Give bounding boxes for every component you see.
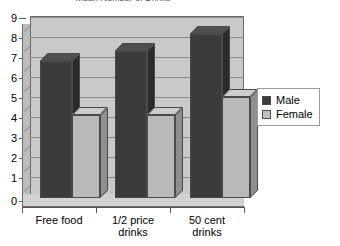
y-tick-label-1: 1: [0, 173, 17, 183]
bar-face: [190, 34, 222, 198]
y-tick-label-5: 5: [0, 93, 17, 103]
bar-female-half-price-drinks: [147, 115, 175, 198]
bar-face: [147, 115, 175, 198]
legend-swatch-male-icon: [262, 96, 271, 105]
y-tick-label-6: 6: [0, 73, 17, 83]
bar-face: [72, 115, 100, 198]
x-axis-label-half-price-drinks: 1/2 price drinks: [96, 214, 170, 238]
gridline-9: [30, 17, 244, 18]
bar-side: [100, 107, 108, 198]
y-tick-label-7: 7: [0, 53, 17, 63]
x-axis-label-line1: 50 cent: [170, 214, 244, 226]
x-axis-label-line1: 1/2 price: [96, 214, 170, 226]
x-tick-mark-3: [244, 207, 245, 213]
chart-legend: Male Female: [257, 88, 320, 126]
x-axis-label-50-cent-drinks: 50 cent drinks: [170, 214, 244, 238]
x-tick-mark-2: [170, 207, 171, 213]
x-axis-label-free-food: Free food: [22, 214, 96, 226]
x-axis-label-line1: Free food: [22, 214, 96, 226]
bar-female-50-cent-drinks: [222, 97, 250, 198]
legend-label-female: Female: [276, 108, 313, 120]
y-tick-label-0: 0: [0, 196, 17, 206]
x-axis-label-line2: drinks: [96, 226, 170, 238]
legend-item-male[interactable]: Male: [262, 93, 313, 107]
y-tick-label-3: 3: [0, 133, 17, 143]
bar-face: [40, 61, 72, 198]
y-tick-mark-9: [19, 18, 26, 19]
bar-side: [175, 107, 183, 198]
bar-chart: Mean Number of Drinks 9 8 7 6 5 4 3 2 1 …: [0, 0, 340, 246]
chart-title: Mean Number of Drinks: [0, 0, 246, 3]
x-axis-label-line2: drinks: [170, 226, 244, 238]
y-tick-label-4: 4: [0, 113, 17, 123]
legend-item-female[interactable]: Female: [262, 107, 313, 121]
bar-male-half-price-drinks: [115, 51, 147, 198]
y-tick-label-9: 9: [0, 13, 17, 23]
legend-swatch-female-icon: [262, 110, 271, 119]
bar-face: [115, 51, 147, 198]
bar-male-free-food: [40, 61, 72, 198]
y-tick-label-8: 8: [0, 33, 17, 43]
bar-female-free-food: [72, 115, 100, 198]
legend-label-male: Male: [276, 94, 300, 106]
bar-male-50-cent-drinks: [190, 34, 222, 198]
y-tick-label-2: 2: [0, 153, 17, 163]
x-tick-mark-1: [96, 207, 97, 213]
bar-face: [222, 97, 250, 198]
x-tick-mark-0: [22, 207, 23, 213]
x-axis-line: [22, 207, 244, 208]
